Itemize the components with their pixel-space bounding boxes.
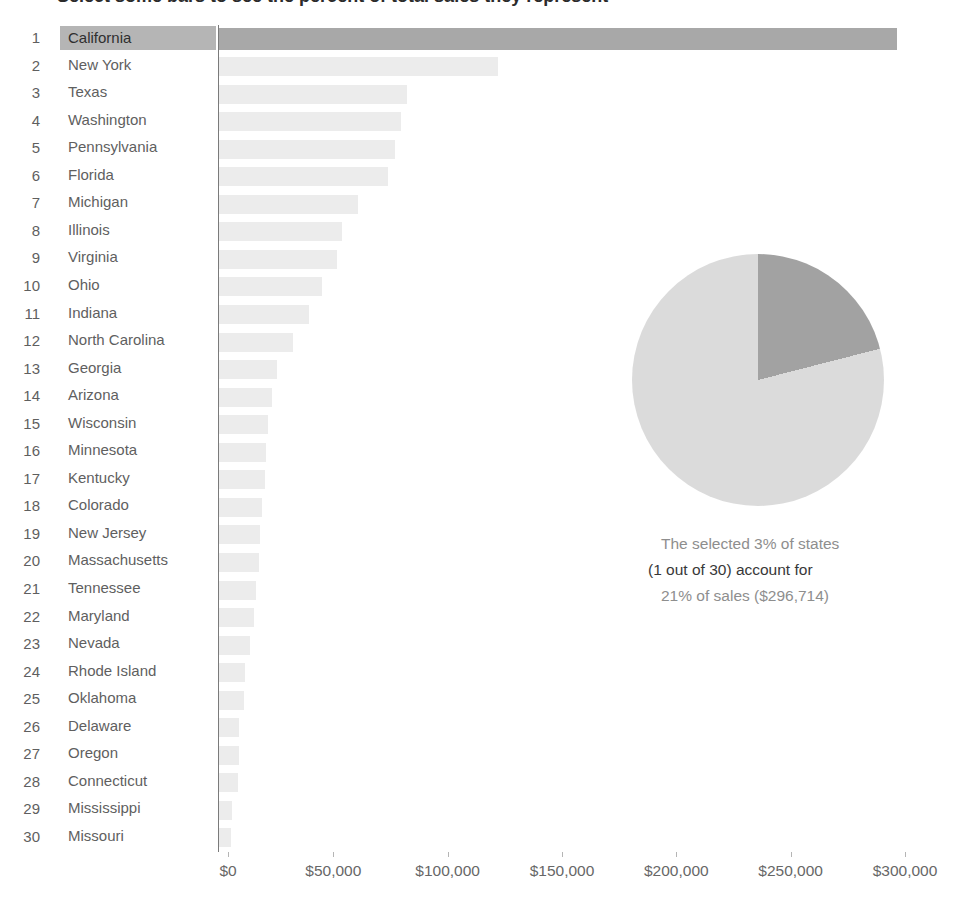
- sales-bar[interactable]: [219, 57, 498, 76]
- sales-bar[interactable]: [219, 470, 265, 489]
- state-row[interactable]: 7Michigan: [0, 190, 954, 218]
- sales-bar[interactable]: [219, 581, 256, 600]
- state-label[interactable]: Ohio: [60, 276, 216, 293]
- sales-bar[interactable]: [219, 443, 266, 462]
- sales-bar[interactable]: [219, 140, 395, 159]
- state-label[interactable]: Georgia: [60, 359, 216, 376]
- sales-bar[interactable]: [219, 718, 239, 737]
- state-label[interactable]: Pennsylvania: [60, 138, 216, 155]
- state-row[interactable]: 8Illinois: [0, 218, 954, 246]
- sales-bar[interactable]: [219, 305, 309, 324]
- state-row[interactable]: 5Pennsylvania: [0, 135, 954, 163]
- sales-bar[interactable]: [219, 746, 239, 765]
- sales-bar[interactable]: [219, 388, 272, 407]
- state-label[interactable]: Texas: [60, 83, 216, 100]
- state-label[interactable]: Washington: [60, 111, 216, 128]
- sales-bar[interactable]: [219, 85, 407, 104]
- state-label[interactable]: New Jersey: [60, 524, 216, 541]
- sales-bar[interactable]: [219, 828, 231, 847]
- state-label[interactable]: Wisconsin: [60, 414, 216, 431]
- state-label[interactable]: Indiana: [60, 304, 216, 321]
- rank-label: 14: [14, 387, 40, 404]
- rank-label: 18: [14, 497, 40, 514]
- state-label[interactable]: California: [60, 26, 216, 50]
- x-axis-tick: [676, 852, 677, 857]
- state-label[interactable]: North Carolina: [60, 331, 216, 348]
- state-label[interactable]: Florida: [60, 166, 216, 183]
- state-label[interactable]: Rhode Island: [60, 662, 216, 679]
- x-axis-tick: [791, 852, 792, 857]
- state-label[interactable]: New York: [60, 56, 216, 73]
- rank-label: 25: [14, 690, 40, 707]
- sales-bar[interactable]: [219, 525, 260, 544]
- state-row[interactable]: 26Delaware: [0, 714, 954, 742]
- sales-bar[interactable]: [219, 277, 322, 296]
- state-label[interactable]: Delaware: [60, 717, 216, 734]
- sales-bar[interactable]: [219, 415, 268, 434]
- state-row[interactable]: 4Washington: [0, 108, 954, 136]
- summary-line-1: The selected 3% of states: [648, 531, 839, 557]
- rank-label: 17: [14, 470, 40, 487]
- sales-bar[interactable]: [219, 691, 244, 710]
- sales-bar[interactable]: [219, 333, 293, 352]
- state-row[interactable]: 25Oklahoma: [0, 686, 954, 714]
- sales-bar[interactable]: [219, 28, 897, 50]
- x-axis-tick-label: $100,000: [415, 862, 480, 880]
- state-row[interactable]: 3Texas: [0, 80, 954, 108]
- state-row[interactable]: 30Missouri: [0, 824, 954, 852]
- state-row[interactable]: 24Rhode Island: [0, 659, 954, 687]
- state-label[interactable]: Nevada: [60, 634, 216, 651]
- state-label[interactable]: Oklahoma: [60, 689, 216, 706]
- summary-line-3: 21% of sales ($296,714): [648, 583, 839, 609]
- state-row[interactable]: 6Florida: [0, 163, 954, 191]
- rank-label: 5: [14, 139, 40, 156]
- state-label[interactable]: Mississippi: [60, 799, 216, 816]
- sales-bar[interactable]: [219, 195, 358, 214]
- sales-share-pie-chart[interactable]: [632, 254, 884, 506]
- state-row[interactable]: 27Oregon: [0, 741, 954, 769]
- sales-bar[interactable]: [219, 167, 388, 186]
- sales-bar[interactable]: [219, 801, 232, 820]
- state-label[interactable]: Michigan: [60, 193, 216, 210]
- state-label[interactable]: Tennessee: [60, 579, 216, 596]
- state-row[interactable]: 2New York: [0, 53, 954, 81]
- rank-label: 30: [14, 828, 40, 845]
- state-label[interactable]: Illinois: [60, 221, 216, 238]
- state-label[interactable]: Colorado: [60, 496, 216, 513]
- state-row[interactable]: 29Mississippi: [0, 796, 954, 824]
- state-row[interactable]: 23Nevada: [0, 631, 954, 659]
- state-label[interactable]: Massachusetts: [60, 551, 216, 568]
- rank-label: 16: [14, 442, 40, 459]
- state-label[interactable]: Connecticut: [60, 772, 216, 789]
- state-row[interactable]: 28Connecticut: [0, 769, 954, 797]
- state-label[interactable]: Kentucky: [60, 469, 216, 486]
- rank-label: 20: [14, 552, 40, 569]
- sales-bar[interactable]: [219, 360, 277, 379]
- state-label[interactable]: Oregon: [60, 744, 216, 761]
- sales-bar[interactable]: [219, 663, 245, 682]
- state-label[interactable]: Arizona: [60, 386, 216, 403]
- state-label[interactable]: Maryland: [60, 607, 216, 624]
- x-axis-tick-label: $300,000: [873, 862, 938, 880]
- sales-bar[interactable]: [219, 250, 337, 269]
- x-axis-tick: [448, 852, 449, 857]
- rank-label: 12: [14, 332, 40, 349]
- state-label[interactable]: Minnesota: [60, 441, 216, 458]
- x-axis-tick-label: $250,000: [758, 862, 823, 880]
- sales-bar[interactable]: [219, 498, 262, 517]
- state-row[interactable]: 18Colorado: [0, 493, 954, 521]
- rank-label: 3: [14, 84, 40, 101]
- state-label[interactable]: Virginia: [60, 248, 216, 265]
- sales-bar[interactable]: [219, 222, 342, 241]
- state-label[interactable]: Missouri: [60, 827, 216, 844]
- sales-bar[interactable]: [219, 553, 259, 572]
- sales-bar[interactable]: [219, 608, 254, 627]
- x-axis-tick-label: $150,000: [530, 862, 595, 880]
- chart-title: Select some bars to see the percent of t…: [57, 0, 608, 7]
- x-axis-tick: [333, 852, 334, 857]
- sales-bar[interactable]: [219, 636, 250, 655]
- sales-bar[interactable]: [219, 112, 401, 131]
- rank-label: 4: [14, 112, 40, 129]
- state-row[interactable]: 1California: [0, 25, 954, 53]
- sales-bar[interactable]: [219, 773, 238, 792]
